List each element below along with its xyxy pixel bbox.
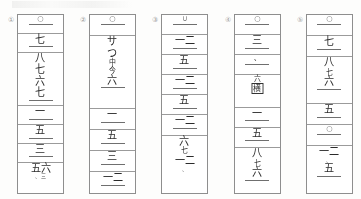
numeral-glyph: 一: [252, 108, 262, 120]
numeral-glyph: 一二: [175, 115, 195, 127]
numeral-glyph: 五: [180, 55, 190, 67]
numeral-cell: 七: [307, 36, 352, 57]
numeral-glyph: 六: [324, 76, 334, 88]
glyph-underline: [317, 134, 341, 135]
numeral-glyph: 五: [108, 130, 118, 142]
cell-glyph-stack: ○: [307, 125, 352, 135]
numeral-cell: 八七六: [235, 148, 280, 193]
glyph-underline: [173, 48, 197, 49]
numeral-cell: ○: [307, 15, 352, 36]
glyph-underline: [317, 24, 341, 25]
numeral-cell: 一: [90, 109, 135, 130]
numeral-column-3: ③∪一二五一二五一二六七一二、: [144, 14, 216, 194]
cell-glyph-stack: ○: [18, 15, 63, 25]
glyph-underline: [101, 143, 125, 144]
numeral-glyph: 五: [35, 125, 45, 137]
numeral-cell: 五: [307, 104, 352, 125]
numeral-glyph: 三: [108, 151, 118, 163]
cell-glyph-stack: 七: [307, 36, 352, 50]
cell-glyph-stack: ∪: [162, 15, 207, 25]
cell-glyph-stack: 一: [235, 108, 280, 122]
cell-glyph-stack: 一二: [162, 115, 207, 129]
numeral-cell: サつ中今六: [90, 36, 135, 109]
numeral-cell: 五六、三: [18, 163, 63, 193]
numeral-grid: ○三、六横一五八七六: [234, 14, 281, 194]
numeral-glyph: 五: [324, 104, 334, 116]
glyph-underline: [29, 119, 53, 120]
numeral-cell: 七: [18, 34, 63, 53]
numeral-cell: 一二: [162, 75, 207, 95]
numeral-cell: ○: [90, 15, 135, 36]
numeral-cell: 五: [235, 128, 280, 148]
numeral-glyph: 五: [180, 95, 190, 107]
numeral-cell: 一二: [162, 35, 207, 55]
glyph-underline: [245, 120, 269, 121]
cell-glyph-stack: 五: [235, 128, 280, 142]
numeral-cell: 三: [90, 151, 135, 172]
numeral-cell: 、: [235, 55, 280, 75]
numeral-glyph: ○: [109, 15, 115, 23]
numeral-glyph: ○: [326, 15, 332, 23]
numeral-cell: 三: [18, 144, 63, 163]
cell-glyph-stack: 五六、三: [18, 163, 63, 180]
glyph-underline: [29, 138, 53, 139]
numeral-column-5: ⑤○七八七六五○一二、五: [289, 14, 361, 194]
numeral-cell: 一: [18, 106, 63, 125]
glyph-underline: [29, 100, 53, 101]
numeral-cell: 一二: [162, 115, 207, 135]
numeral-glyph: ∪: [182, 15, 187, 23]
glyph-underline: [245, 180, 269, 181]
numeral-cell: 一: [235, 108, 280, 128]
numeral-grid: ○七八七六七一五三五六、三: [17, 14, 64, 194]
numeral-glyph: 六: [252, 167, 262, 179]
numeral-glyph: ○: [37, 15, 43, 23]
cell-glyph-stack: 五: [162, 95, 207, 109]
numeral-glyph: 三: [35, 144, 45, 156]
cell-glyph-stack: 一二、五: [307, 146, 352, 177]
numeral-cell: ∪: [162, 15, 207, 35]
cell-glyph-stack: 五: [307, 104, 352, 118]
numeral-grid: ○七八七六五○一二、五: [306, 14, 353, 194]
numeral-glyph: 七: [324, 36, 334, 48]
numeral-glyph: 七: [35, 34, 45, 46]
cell-glyph-stack: ○: [235, 15, 280, 25]
numeral-glyph: 一: [35, 106, 45, 118]
glyph-underline: [101, 164, 125, 165]
numeral-cell: 八七六: [307, 57, 352, 104]
column-number-label: ②: [77, 14, 89, 24]
glyph-underline: [29, 156, 53, 157]
cell-glyph-stack: 三: [90, 151, 135, 165]
cell-glyph-stack: 一: [90, 109, 135, 123]
cell-glyph-stack: 一二: [90, 172, 135, 186]
numeral-cell: ○: [18, 15, 63, 34]
glyph-underline: [101, 87, 125, 88]
cell-glyph-stack: 八七六七: [18, 53, 63, 101]
cell-glyph-stack: ○: [307, 15, 352, 25]
cell-glyph-stack: 五: [18, 125, 63, 139]
cell-glyph-stack: ○: [90, 15, 135, 25]
glyph-underline: [29, 24, 53, 25]
numeral-glyph: 五: [324, 163, 334, 175]
numeral-glyph: 一: [108, 109, 118, 121]
glyph-underline: [173, 108, 197, 109]
glyph-underline: [317, 49, 341, 50]
numeral-glyph: 、: [254, 55, 260, 62]
cell-glyph-stack: 一: [18, 106, 63, 120]
cell-glyph-stack: 六七一二、: [162, 136, 207, 173]
cell-glyph-stack: 一二: [162, 35, 207, 49]
numeral-column-1: ①○七八七六七一五三五六、三: [0, 14, 72, 194]
numeral-glyph: 一二: [175, 75, 195, 87]
numeral-cell: ○: [307, 125, 352, 146]
numeral-cell: 五: [90, 130, 135, 151]
numeral-cell: 一二: [90, 172, 135, 193]
numeral-glyph: 、: [182, 167, 188, 173]
cell-glyph-stack: 五: [90, 130, 135, 144]
cell-glyph-stack: 一二: [162, 75, 207, 89]
numeral-glyph: 三: [252, 35, 262, 47]
cell-glyph-stack: 三: [18, 144, 63, 158]
glyph-underline: [173, 24, 197, 25]
cell-glyph-stack: 七: [18, 34, 63, 48]
glyph-underline: [245, 24, 269, 25]
column-number-label: ①: [5, 14, 17, 24]
numeral-cell: 五: [162, 55, 207, 75]
